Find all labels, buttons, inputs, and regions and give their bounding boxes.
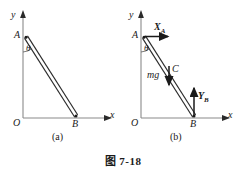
point-a-label: A <box>132 30 138 40</box>
y-axis-label: y <box>129 10 133 20</box>
x-axis-label: x <box>228 110 232 120</box>
panel-b-sublabel: (b) <box>170 131 182 142</box>
y-axis-a <box>20 10 26 118</box>
x-axis-a <box>23 115 112 121</box>
joint-a-dot <box>25 36 28 39</box>
y-axis-label: y <box>11 10 15 20</box>
force-subscript-a: A <box>161 27 166 35</box>
panel-a: y x O A B θ (a) <box>0 0 123 150</box>
joint-b-dot <box>75 114 78 117</box>
force-symbol-x: X <box>154 21 161 32</box>
theta-angle-label: θ <box>26 44 30 53</box>
rod-ab-a <box>25 36 78 117</box>
panel-b: y x O A B C θ XA mg YB (b) <box>118 0 241 150</box>
point-b-label: B <box>190 119 196 129</box>
origin-label: O <box>13 118 20 128</box>
theta-angle-label: θ <box>144 44 148 53</box>
x-axis-label: x <box>110 110 114 120</box>
figure-7-18: y x O A B θ (a) <box>0 0 246 176</box>
point-a-label: A <box>14 30 20 40</box>
force-label-mg: mg <box>147 70 159 80</box>
force-label-xa: XA <box>154 22 165 35</box>
figure-caption: 图 7-18 <box>0 152 246 168</box>
x-axis-b <box>141 115 230 121</box>
point-b-label: B <box>72 119 78 129</box>
origin-label: O <box>131 118 138 128</box>
y-axis-b <box>138 10 144 118</box>
panel-a-sublabel: (a) <box>52 131 63 142</box>
force-label-yb: YB <box>198 91 209 104</box>
force-subscript-b: B <box>204 96 209 104</box>
point-c-label: C <box>172 64 179 74</box>
